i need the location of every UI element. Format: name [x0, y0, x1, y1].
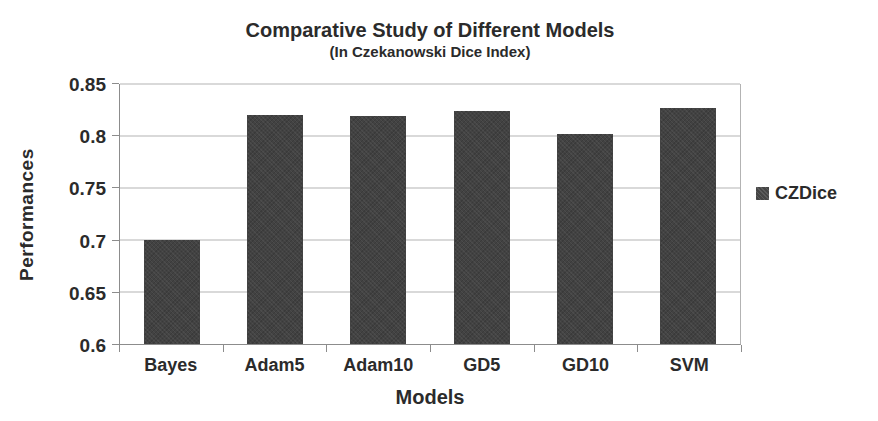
bar-slot	[637, 84, 740, 344]
x-tick-mark	[534, 345, 535, 352]
x-tick-mark	[430, 345, 431, 352]
chart-subtitle: (In Czekanowski Dice Index)	[119, 43, 741, 61]
y-tick-label: 0.65	[69, 283, 106, 302]
x-tick-label-bayes: Bayes	[119, 355, 223, 375]
y-tick-label: 0.7	[80, 231, 106, 250]
x-tick-label-adam10: Adam10	[326, 355, 430, 375]
x-tick-mark	[326, 345, 327, 352]
y-tick-mark	[112, 135, 119, 136]
bar-slot	[223, 84, 326, 344]
y-tick-mark	[112, 240, 119, 241]
y-tick-mark	[112, 292, 119, 293]
bar-slot	[120, 84, 223, 344]
x-tick-marks	[119, 345, 741, 352]
legend: CZDice	[756, 183, 837, 203]
x-tick-label-gd5: GD5	[430, 355, 534, 375]
x-tick-mark	[637, 345, 638, 352]
bar-svm	[660, 108, 716, 344]
y-tick-marks	[112, 84, 119, 345]
bar-adam5	[247, 115, 303, 344]
y-tick-label: 0.6	[80, 336, 106, 355]
y-tick-label: 0.85	[69, 75, 106, 94]
x-tick-labels: BayesAdam5Adam10GD5GD10SVM	[119, 355, 741, 375]
bar-gd5	[454, 111, 510, 344]
bar-gd10	[557, 134, 613, 344]
y-tick-mark	[112, 187, 119, 188]
y-tick-mark	[112, 83, 119, 84]
y-tick-label: 0.8	[80, 127, 106, 146]
bar-adam10	[350, 116, 406, 344]
plot-area	[119, 84, 741, 345]
x-tick-label-svm: SVM	[637, 355, 741, 375]
bar-bayes	[144, 240, 200, 344]
legend-label: CZDice	[775, 183, 837, 203]
chart-title: Comparative Study of Different Models	[119, 19, 741, 42]
x-tick-mark	[741, 345, 742, 352]
bars	[120, 84, 740, 344]
y-tick-label: 0.75	[69, 179, 106, 198]
bar-slot	[327, 84, 430, 344]
x-tick-label-adam5: Adam5	[223, 355, 327, 375]
y-tick-labels: 0.60.650.70.750.80.85	[0, 84, 106, 345]
x-axis-label: Models	[119, 386, 741, 409]
y-tick-mark	[112, 344, 119, 345]
x-tick-mark	[119, 345, 120, 352]
bar-slot	[533, 84, 636, 344]
legend-marker-icon	[756, 187, 769, 200]
bar-slot	[430, 84, 533, 344]
x-tick-mark	[223, 345, 224, 352]
x-tick-label-gd10: GD10	[534, 355, 638, 375]
